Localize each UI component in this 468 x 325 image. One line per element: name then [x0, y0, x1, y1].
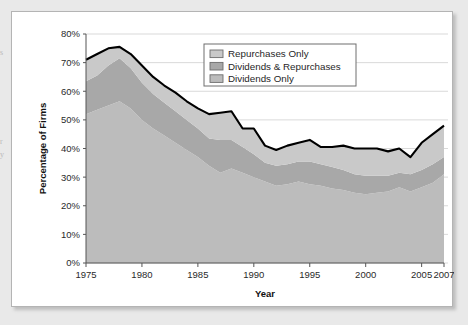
margin-text-fragment: r — [0, 137, 2, 146]
y-tick-label: 30% — [61, 172, 81, 183]
y-tick-label: 70% — [61, 57, 81, 68]
legend-swatch — [210, 62, 223, 70]
stacked-area-chart: 0%10%20%30%40%50%60%70%80% 1975198019851… — [12, 12, 454, 308]
y-tick-label: 20% — [61, 200, 81, 211]
margin-text-fragment: s — [0, 48, 3, 57]
x-axis-title: Year — [255, 288, 275, 299]
legend-swatch — [210, 75, 223, 83]
x-tick-label: 1995 — [299, 269, 320, 280]
x-tick-label: 1990 — [243, 269, 264, 280]
y-tick-label: 0% — [66, 257, 80, 268]
y-axis-title: Percentage of Firms — [37, 103, 48, 194]
chart-svg: 0%10%20%30%40%50%60%70%80% 1975198019851… — [12, 12, 454, 308]
x-axis-tick-labels: 19751980198519901995200020052007 — [75, 269, 454, 280]
x-tick-label: 2007 — [433, 269, 454, 280]
legend-label: Repurchases Only — [228, 48, 309, 59]
y-axis-tick-labels: 0%10%20%30%40%50%60%70%80% — [61, 28, 81, 268]
x-tick-label: 2000 — [355, 269, 376, 280]
y-tick-label: 60% — [61, 86, 81, 97]
y-tick-label: 40% — [61, 143, 81, 154]
y-tick-label: 50% — [61, 114, 81, 125]
x-tick-label: 1985 — [187, 269, 208, 280]
legend-label: Dividends Only — [228, 73, 294, 84]
x-axis-ticks — [86, 263, 444, 267]
chart-legend: Repurchases OnlyDividends & RepurchasesD… — [204, 44, 356, 86]
y-tick-label: 10% — [61, 229, 81, 240]
legend-swatch — [210, 50, 223, 58]
figure-panel: 0%10%20%30%40%50%60%70%80% 1975198019851… — [11, 11, 453, 307]
x-tick-label: 1980 — [131, 269, 152, 280]
x-tick-label: 2005 — [411, 269, 432, 280]
y-tick-label: 80% — [61, 28, 81, 39]
x-tick-label: 1975 — [75, 269, 96, 280]
margin-text-fragment: y — [0, 150, 4, 159]
legend-label: Dividends & Repurchases — [228, 61, 341, 72]
